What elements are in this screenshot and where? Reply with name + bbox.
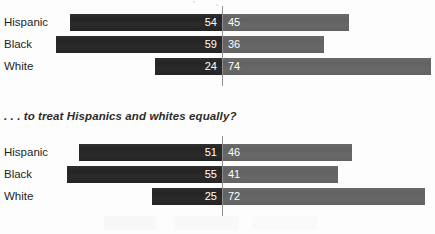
- bar-value-left: 55: [205, 167, 217, 182]
- row-label-white: White: [4, 59, 33, 74]
- row-label-black: Black: [4, 167, 32, 182]
- row-label-hispanic: Hispanic: [4, 145, 48, 160]
- bar-right-hispanic: 46: [223, 144, 352, 161]
- bar-value-left: 25: [205, 189, 217, 204]
- chart-row: Hispanic 51 46: [0, 144, 435, 161]
- scan-artifact-top: [186, 0, 246, 7]
- panel-2-subtitle: . . . to treat Hispanics and whites equa…: [4, 110, 237, 122]
- bar-value-left: 54: [205, 15, 217, 30]
- chart-row: Hispanic 54 45: [0, 14, 435, 31]
- row-label-black: Black: [4, 37, 32, 52]
- bar-value-left: 24: [205, 59, 217, 74]
- chart-row: White 25 72: [0, 188, 435, 205]
- row-label-hispanic: Hispanic: [4, 15, 48, 30]
- chart-row: Black 55 41: [0, 166, 435, 183]
- bar-left-hispanic: 54: [70, 14, 222, 31]
- scan-artifact-bottom: [104, 216, 334, 230]
- bar-value-right: 46: [228, 145, 240, 160]
- bar-right-white: 74: [223, 58, 431, 75]
- bar-value-right: 72: [228, 189, 240, 204]
- bar-right-white: 72: [223, 188, 425, 205]
- chart-row: Black 59 36: [0, 36, 435, 53]
- bar-value-right: 36: [228, 37, 240, 52]
- bar-left-black: 55: [67, 166, 222, 183]
- bar-left-hispanic: 51: [79, 144, 222, 161]
- chart-row: White 24 74: [0, 58, 435, 75]
- bar-right-black: 36: [223, 36, 324, 53]
- bar-value-left: 51: [205, 145, 217, 160]
- bar-value-left: 59: [205, 37, 217, 52]
- bar-left-white: 24: [155, 58, 222, 75]
- bar-value-right: 41: [228, 167, 240, 182]
- bar-value-right: 45: [228, 15, 240, 30]
- chart-page: Hispanic 54 45 Black 59 36 White 24 74: [0, 0, 435, 234]
- bar-left-white: 25: [152, 188, 222, 205]
- bar-right-hispanic: 45: [223, 14, 349, 31]
- bar-value-right: 74: [228, 59, 240, 74]
- row-label-white: White: [4, 189, 33, 204]
- bar-left-black: 59: [56, 36, 222, 53]
- bar-right-black: 41: [223, 166, 338, 183]
